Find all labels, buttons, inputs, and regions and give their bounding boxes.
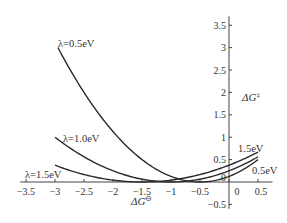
y-tick-label: 3 — [221, 42, 226, 53]
y-tick-label: −0.5 — [208, 199, 226, 210]
y-tick-label: 2.5 — [214, 65, 227, 76]
y-tick-label: 1 — [221, 132, 226, 143]
x-tick-label: −1 — [166, 186, 177, 197]
x-tick-label: −2 — [108, 186, 119, 197]
x-tick-label: 0 — [235, 186, 240, 197]
y-tick-label: 3.5 — [214, 20, 227, 31]
label-lambda-0.5: λ=0.5eV — [58, 38, 95, 49]
label-lambda-1.5: λ=1.5eV — [25, 169, 62, 180]
x-tick-label: −3 — [50, 186, 61, 197]
y-axis-title: ΔG‡ — [241, 91, 260, 103]
y-tick-label: 1.5 — [214, 109, 227, 120]
curves — [55, 48, 258, 182]
x-tick-label: 0.5 — [255, 186, 268, 197]
label-right-1.5: 1.5eV — [238, 143, 264, 154]
marcus-parabola-chart: −3.5−3−2.5−2−1.5−1−0.500.5−0.50.511.522.… — [0, 0, 287, 223]
y-tick-label: 2 — [221, 87, 226, 98]
label-lambda-1.0: λ=1.0eV — [63, 133, 100, 144]
x-tick-label: −0.5 — [191, 186, 209, 197]
x-tick-label: −2.5 — [75, 186, 93, 197]
y-tick-label: 0.5 — [214, 154, 227, 165]
x-tick-label: −3.5 — [17, 186, 35, 197]
label-right-0.5: 0.5eV — [252, 165, 278, 176]
curve-0.5 — [58, 48, 258, 182]
x-axis-title: ΔG⊖ — [130, 194, 152, 207]
